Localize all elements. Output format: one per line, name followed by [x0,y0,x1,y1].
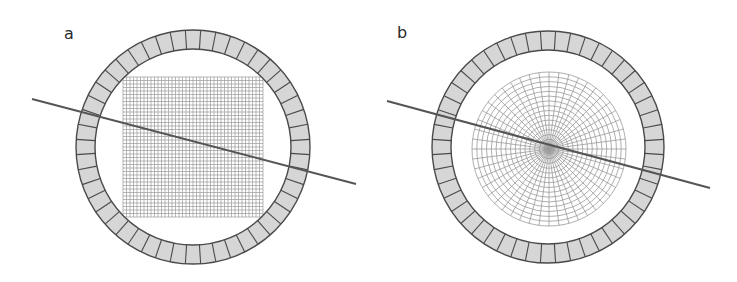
cartesian-pixel-grid [123,77,263,217]
panel-b-polar-grid [387,31,710,263]
polar-pixel-grid [472,72,626,226]
panel-label-b: b [397,25,407,41]
figure-canvas [0,0,737,282]
panel-label-a: a [64,26,74,42]
panel-a-cartesian-grid [32,30,356,264]
